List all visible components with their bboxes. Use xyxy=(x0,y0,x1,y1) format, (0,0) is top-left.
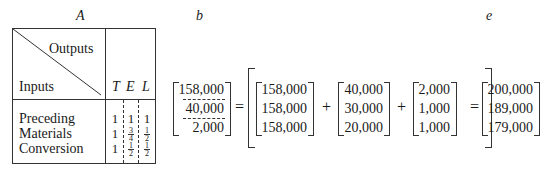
term2-value: 20,000 xyxy=(345,120,384,136)
plus-sign: + xyxy=(397,98,406,116)
vector-term2: 40,000 30,000 20,000 xyxy=(338,82,390,136)
b-value: 2,000 xyxy=(193,120,225,136)
e-value: 179,000 xyxy=(488,120,534,136)
header-outputs: Outputs xyxy=(49,41,93,57)
term1-value: 158,000 xyxy=(262,101,308,117)
cell-fraction: 12 xyxy=(139,140,155,157)
column-E: E xyxy=(126,79,135,95)
vector-b: 158,000 40,000 2,000 xyxy=(173,82,231,136)
header-inputs: Inputs xyxy=(19,79,54,95)
term3-value: 1,000 xyxy=(419,101,451,117)
term3-value: 1,000 xyxy=(419,120,451,136)
cell: 1 xyxy=(107,126,123,142)
coefficient-table: Outputs Inputs T E L Preceding Materials… xyxy=(12,28,156,164)
term2-value: 30,000 xyxy=(345,101,384,117)
column-T: T xyxy=(112,79,120,95)
vector-e: 200,000 189,000 179,000 xyxy=(482,82,540,136)
cell: 1 xyxy=(107,111,123,127)
b-value: 158,000 xyxy=(179,82,225,98)
equals-sign: = xyxy=(470,98,479,116)
term1-value: 158,000 xyxy=(262,82,308,98)
term1-value: 158,000 xyxy=(262,120,308,136)
column-L: L xyxy=(142,79,150,95)
row-label-conversion: Conversion xyxy=(19,141,84,157)
row-label-preceding: Preceding xyxy=(19,111,75,127)
equals-sign: = xyxy=(235,98,244,116)
label-b: b xyxy=(196,8,203,24)
plus-sign: + xyxy=(322,98,331,116)
cell-fraction: 12 xyxy=(123,140,139,157)
cell: 1 xyxy=(107,141,123,157)
row-label-materials: Materials xyxy=(19,126,72,142)
label-A: A xyxy=(76,8,85,24)
term2-value: 40,000 xyxy=(345,82,384,98)
label-e: e xyxy=(486,8,492,24)
term3-value: 2,000 xyxy=(419,82,451,98)
vector-term1: 158,000 158,000 158,000 xyxy=(256,82,314,136)
b-value: 40,000 xyxy=(186,101,225,117)
e-value: 200,000 xyxy=(488,82,534,98)
e-value: 189,000 xyxy=(488,101,534,117)
vector-term3: 2,000 1,000 1,000 xyxy=(413,82,457,136)
